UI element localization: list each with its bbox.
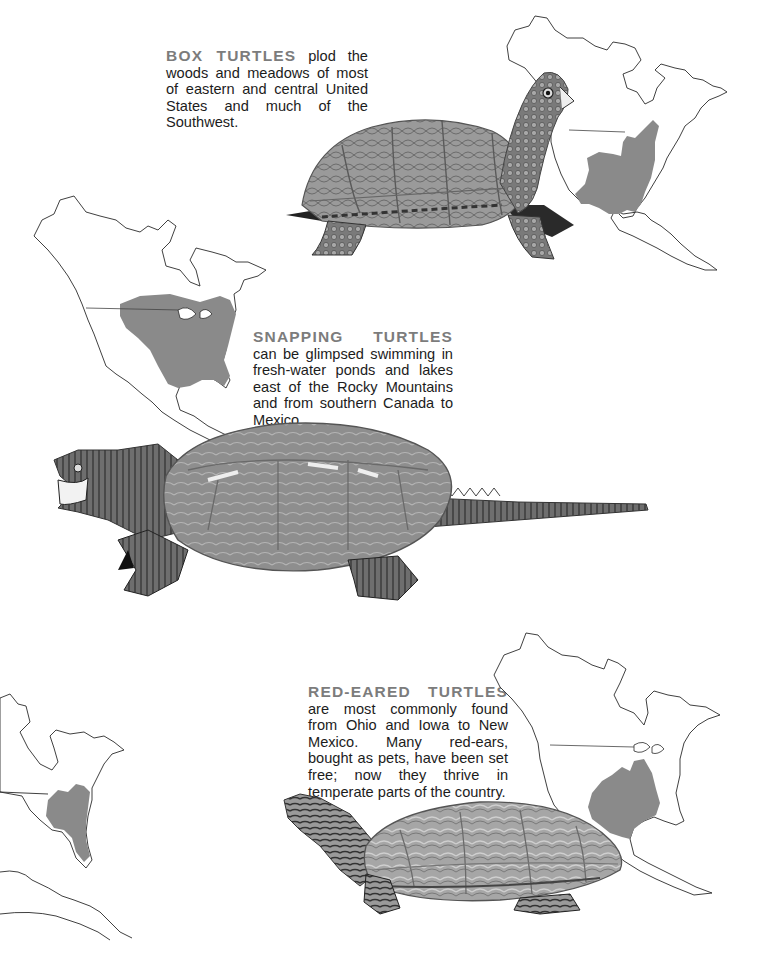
snapping-turtles-heading: SNAPPING TURTLES: [253, 328, 453, 345]
box-turtle-illustration: [282, 65, 582, 270]
red-eared-turtle-illustration: [280, 790, 630, 920]
snapping-turtles-body: can be glimpsed swimming in fresh-water …: [253, 346, 453, 428]
box-turtles-heading: BOX TURTLES: [166, 47, 296, 64]
red-eared-turtles-heading: RED-EARED TURTLES: [308, 683, 508, 700]
red-eared-turtles-body: are most commonly found from Ohio and Io…: [308, 701, 508, 800]
red-eared-turtles-caption: RED-EARED TURTLES are most commonly foun…: [308, 684, 508, 800]
eastern-range-map-partial: [0, 692, 140, 942]
snapping-turtle-range-map: [30, 190, 280, 440]
snapping-turtles-caption: SNAPPING TURTLES can be glimpsed swimmin…: [253, 329, 453, 429]
snapping-turtle-illustration: [48, 420, 653, 610]
